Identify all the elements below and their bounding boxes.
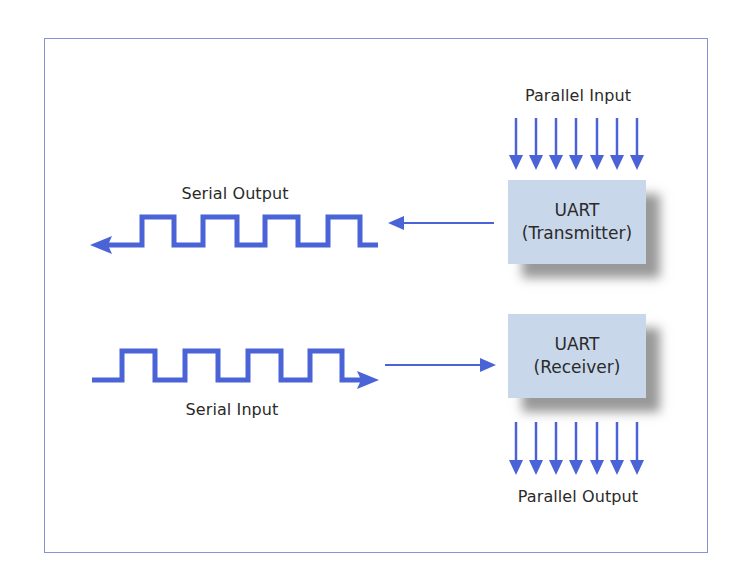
- parallel-input-label: Parallel Input: [525, 86, 631, 105]
- parallel-output-arrows: [509, 422, 644, 475]
- uart-receiver-box: UART (Receiver): [508, 314, 646, 398]
- serial-input-label: Serial Input: [186, 400, 279, 419]
- parallel-input-arrows: [509, 118, 644, 170]
- tx-connector-arrow: [388, 216, 494, 230]
- transmitter-role: (Transmitter): [522, 222, 632, 245]
- serial-output-waveform: [90, 217, 378, 254]
- parallel-output-label: Parallel Output: [518, 487, 638, 506]
- receiver-name: UART: [554, 333, 599, 356]
- transmitter-name: UART: [554, 199, 599, 222]
- receiver-role: (Receiver): [534, 356, 621, 379]
- rx-connector-arrow: [385, 358, 496, 372]
- serial-input-waveform: [92, 351, 379, 389]
- uart-transmitter-box: UART (Transmitter): [508, 180, 646, 264]
- serial-output-label: Serial Output: [181, 184, 288, 203]
